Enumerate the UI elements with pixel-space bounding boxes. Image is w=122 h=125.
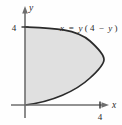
x-axis-arrowhead [102, 102, 110, 108]
figure-container: y x 4 4 x = y ( 4 − y ) [0, 0, 122, 125]
y-axis-label: y [28, 3, 34, 13]
equation-minus: − [99, 23, 104, 33]
equation-term-y2: y [107, 23, 112, 33]
x-tick-label-4: 4 [98, 112, 103, 122]
equation-paren-open: ( [85, 23, 88, 33]
x-axis-label: x [111, 100, 117, 110]
equation-term-four: 4 [90, 23, 95, 33]
equation-equals: = [69, 23, 74, 33]
equation-term-x: x [59, 23, 64, 33]
equation-term-y1: y [78, 23, 83, 33]
equation-paren-close: ) [114, 23, 117, 33]
shaded-region [25, 27, 104, 105]
y-axis-arrowhead [22, 6, 28, 14]
y-tick-label-4: 4 [12, 23, 17, 33]
parabola-plot: y x 4 4 x = y ( 4 − y ) [0, 0, 122, 125]
